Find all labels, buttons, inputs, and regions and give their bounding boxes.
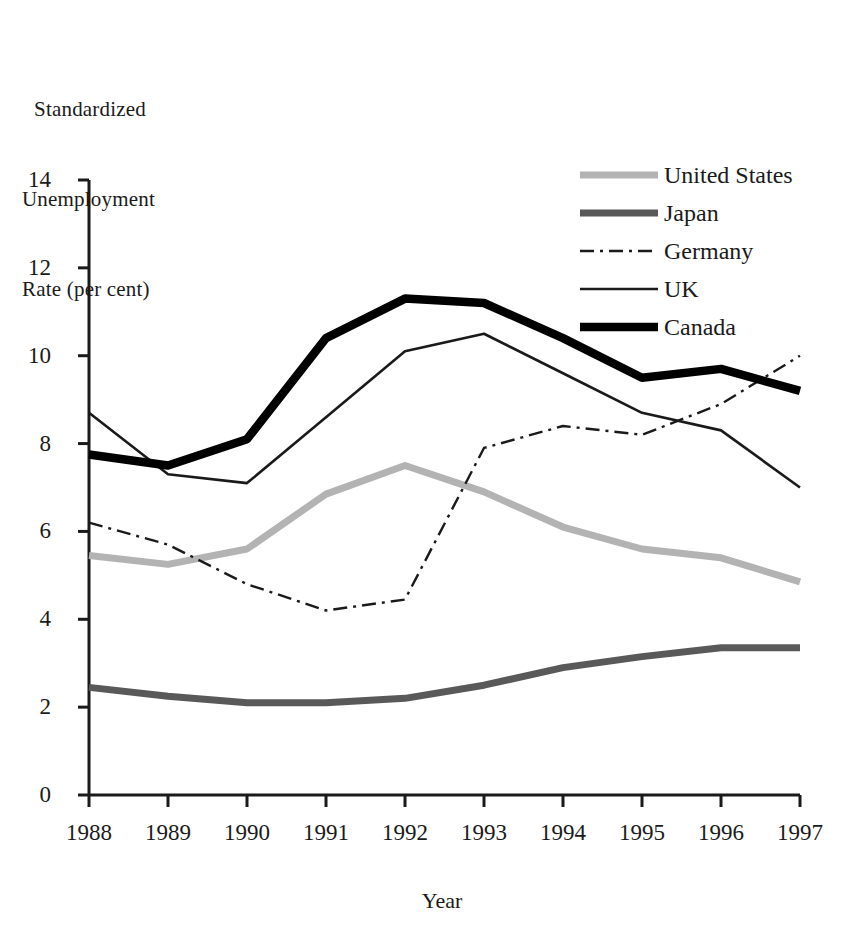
x-axis-title-label: Year	[422, 888, 463, 914]
y-tick-label: 14	[5, 168, 51, 191]
x-tick-label: 1994	[518, 821, 608, 844]
series-line-germany	[89, 356, 800, 611]
legend-line-swatch-icon	[580, 319, 658, 335]
chart-legend: United StatesJapanGermanyUKCanada	[580, 156, 860, 346]
x-tick-label: 1996	[676, 821, 766, 844]
legend-line-swatch-icon	[580, 281, 658, 297]
x-tick-label: 1988	[44, 821, 134, 844]
legend-item-germany[interactable]: Germany	[580, 232, 860, 270]
legend-item-label: Japan	[664, 200, 719, 227]
x-tick-label: 1993	[439, 821, 529, 844]
y-tick-label: 12	[5, 256, 51, 279]
series-line-uk	[89, 334, 800, 488]
legend-item-label: United States	[664, 162, 793, 189]
legend-line-swatch-icon	[580, 243, 658, 259]
plot-area	[0, 0, 864, 941]
series-line-japan	[89, 648, 800, 703]
legend-item-japan[interactable]: Japan	[580, 194, 860, 232]
x-tick-label: 1995	[597, 821, 687, 844]
x-axis-ticks	[89, 795, 800, 807]
x-axis-title: Year	[0, 888, 864, 914]
y-tick-label: 0	[5, 783, 51, 806]
y-axis-ticks	[78, 180, 89, 795]
legend-item-label: Canada	[664, 314, 736, 341]
legend-item-canada[interactable]: Canada	[580, 308, 860, 346]
y-tick-label: 8	[5, 432, 51, 455]
legend-item-label: Germany	[664, 238, 753, 265]
legend-item-united-states[interactable]: United States	[580, 156, 860, 194]
x-tick-label: 1991	[281, 821, 371, 844]
y-tick-label: 6	[5, 519, 51, 542]
unemployment-line-chart: Standardized Unemployment Rate (per cent…	[0, 0, 864, 941]
x-tick-label: 1990	[202, 821, 292, 844]
y-tick-label: 10	[5, 344, 51, 367]
y-tick-label: 4	[5, 607, 51, 630]
x-tick-label: 1992	[360, 821, 450, 844]
legend-line-swatch-icon	[580, 167, 658, 183]
legend-item-uk[interactable]: UK	[580, 270, 860, 308]
legend-line-swatch-icon	[580, 205, 658, 221]
x-tick-label: 1989	[123, 821, 213, 844]
y-tick-label: 2	[5, 695, 51, 718]
legend-item-label: UK	[664, 276, 699, 303]
x-tick-label: 1997	[755, 821, 845, 844]
